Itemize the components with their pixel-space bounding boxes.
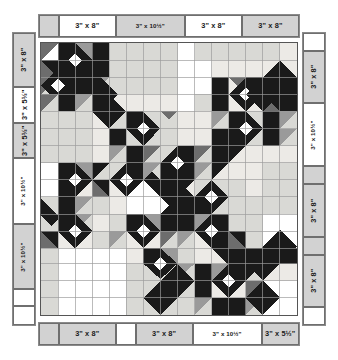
left-border-label-5: 3" x 10½" xyxy=(21,242,27,271)
right-border-segment-3: 3" x 10½" xyxy=(303,103,325,166)
right-border-segment-6 xyxy=(303,237,325,255)
right-border-segment-1 xyxy=(303,33,325,51)
left-border-label-3: 3" x 5½" xyxy=(20,125,27,155)
top-border-label-2: 3" x 8" xyxy=(75,22,99,29)
bottom-border-segment-3 xyxy=(116,323,136,345)
top-border-segment-2: 3" x 8" xyxy=(59,15,116,37)
bottom-border-label-4: 3" x 8" xyxy=(152,330,176,337)
top-border-label-4: 3" x 8" xyxy=(201,22,225,29)
left-border-segment-1: 3" x 8" xyxy=(13,33,35,87)
top-border-segment-5: 3" x 8" xyxy=(242,15,299,37)
bottom-border-label-5: 3" x 10½" xyxy=(213,331,242,337)
bottom-border-segment-6: 3" x 5½" xyxy=(262,323,299,345)
right-border-segment-5: 3" x 8" xyxy=(303,184,325,236)
top-border-label-3: 3" x 10½" xyxy=(136,23,165,29)
right-border-segment-8 xyxy=(303,307,325,325)
right-border-segment-2: 3" x 8" xyxy=(303,51,325,103)
bottom-border-label-6: 3" x 5½" xyxy=(265,330,295,337)
bottom-border-segment-5: 3" x 10½" xyxy=(193,323,262,345)
left-border-segment-5: 3" x 10½" xyxy=(13,224,35,290)
top-border-segment-3: 3" x 10½" xyxy=(116,15,185,37)
top-border-segment-1 xyxy=(39,15,59,37)
left-border-label-2: 3" x 5½" xyxy=(20,90,27,120)
bottom-border-segment-2: 3" x 8" xyxy=(59,323,116,345)
left-border-segment-3: 3" x 5½" xyxy=(13,123,35,159)
right-border-segment-7: 3" x 8" xyxy=(303,255,325,307)
left-border-label-4: 3" x 10½" xyxy=(21,177,27,206)
right-border-label-3: 3" x 10½" xyxy=(311,120,317,149)
right-border-label-5: 3" x 8" xyxy=(310,198,317,222)
right-border-segment-4 xyxy=(303,166,325,184)
quilt-center-layout: .bg{fill:#eceae6;} .k{fill:#1a1a1a;} .dg… xyxy=(40,42,298,316)
left-border-segment-2: 3" x 5½" xyxy=(13,87,35,123)
bottom-border-label-2: 3" x 8" xyxy=(75,330,99,337)
top-border-segment-4: 3" x 8" xyxy=(185,15,242,37)
right-border-label-7: 3" x 8" xyxy=(310,269,317,293)
right-border-label-2: 3" x 8" xyxy=(310,65,317,89)
top-border-label-5: 3" x 8" xyxy=(258,22,282,29)
quilt-layout-diagram: .bg{fill:#eceae6;} .k{fill:#1a1a1a;} .dg… xyxy=(0,0,338,360)
left-border-segment-6 xyxy=(13,289,35,306)
bottom-border-segment-1 xyxy=(39,323,59,345)
bottom-border-segment-4: 3" x 8" xyxy=(136,323,193,345)
left-border-segment-7 xyxy=(13,306,35,325)
left-border-label-1: 3" x 8" xyxy=(20,48,27,72)
left-border-segment-4: 3" x 10½" xyxy=(13,158,35,224)
